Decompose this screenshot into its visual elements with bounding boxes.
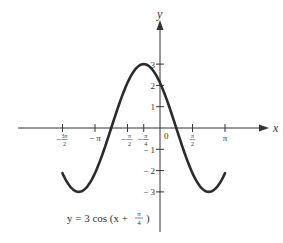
x-tick-label: π [223,133,228,143]
equation-frac-num: π [137,210,141,218]
y-tick-label: 2 [151,81,156,91]
x-tick-label-num: π [128,133,131,139]
y-tick-label: − 3 [143,187,155,197]
x-tick-label-num: π [191,133,194,139]
x-tick-label: − π [89,133,101,143]
equation-frac-den: 4 [137,219,141,227]
svg-text:−: − [121,134,126,144]
x-tick-label-num: 3π [61,133,67,139]
equation-suffix: ) [146,212,150,225]
y-axis-arrow-icon [157,20,164,30]
x-tick-label-den: 2 [63,141,66,147]
x-axis-arrow-icon [259,125,269,132]
y-axis-label: y [156,7,163,21]
equation-prefix: y = 3 cos (x + [67,212,128,225]
svg-text:y = 3 cos (x +: y = 3 cos (x + [67,212,128,225]
svg-text:−: − [56,134,61,144]
y-tick-label: − 2 [143,166,155,176]
y-tick-label: 1 [151,102,156,112]
x-ticks: −3π2− π−π2−π40π2π [56,124,228,147]
x-tick-label-num: π [144,133,147,139]
y-tick-label: − 1 [143,145,155,155]
svg-text:−: − [137,134,142,144]
equation-label: y = 3 cos (x + π 4 ) [67,210,150,227]
x-tick-label-den: 2 [128,141,131,147]
cosine-chart: x y −3π2− π−π2−π40π2π 321− 1− 2− 3 y = 3… [0,0,283,243]
x-tick-label-den: 2 [191,141,194,147]
x-axis-label: x [272,121,279,135]
x-tick-label: 0 [164,131,169,141]
